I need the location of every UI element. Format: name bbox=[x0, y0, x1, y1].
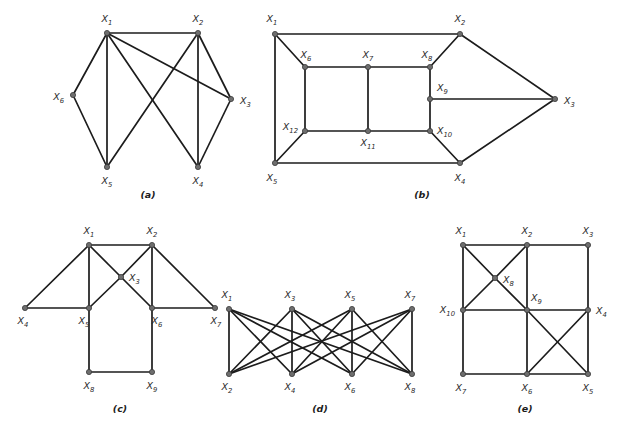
vertex-X1 bbox=[104, 30, 109, 35]
vertex-X6 bbox=[302, 64, 307, 69]
vertex-label-X4: X4 bbox=[454, 172, 466, 186]
graph-b-edges bbox=[275, 34, 555, 163]
vertex-X1 bbox=[226, 306, 231, 311]
vertex-label-X6: X6 bbox=[300, 49, 313, 63]
vertex-label-X5: X5 bbox=[582, 382, 594, 396]
vertex-X6 bbox=[349, 371, 354, 376]
vertex-label-X1: X1 bbox=[455, 225, 467, 239]
vertex-X9 bbox=[149, 369, 154, 374]
vertex-label-X1: X1 bbox=[101, 13, 113, 27]
vertex-X7 bbox=[409, 306, 414, 311]
vertex-X4 bbox=[195, 164, 200, 169]
vertex-X4 bbox=[457, 160, 462, 165]
vertex-label-X5: X5 bbox=[266, 172, 278, 186]
vertex-X1 bbox=[86, 242, 91, 247]
vertex-X2 bbox=[457, 31, 462, 36]
vertex-X7 bbox=[212, 305, 217, 310]
graph-c-edges bbox=[25, 245, 215, 372]
edge-X1-X3 bbox=[107, 33, 231, 99]
vertex-label-X7: X7 bbox=[362, 49, 375, 63]
vertex-X6 bbox=[70, 92, 75, 97]
vertex-X4 bbox=[289, 371, 294, 376]
vertex-X4 bbox=[585, 307, 590, 312]
vertex-X5 bbox=[104, 164, 109, 169]
vertex-label-X4: X4 bbox=[17, 315, 29, 329]
vertex-X2 bbox=[149, 242, 154, 247]
caption-a: (a) bbox=[140, 189, 155, 200]
graph-e: X1X2X3X4X5X6X7X8X9X10(e) bbox=[439, 225, 607, 414]
vertex-label-X4: X4 bbox=[595, 305, 607, 319]
vertex-label-X12: X12 bbox=[282, 121, 298, 135]
vertex-label-X8: X8 bbox=[502, 274, 515, 288]
vertex-X1 bbox=[460, 242, 465, 247]
vertex-X7 bbox=[460, 371, 465, 376]
edge-X3-X4 bbox=[460, 99, 555, 163]
vertex-label-X3: X3 bbox=[582, 225, 594, 239]
graph-d-edges bbox=[229, 309, 412, 374]
vertex-X8 bbox=[409, 371, 414, 376]
graph-d: X1X3X5X7X2X4X6X8(d) bbox=[221, 289, 417, 414]
vertex-label-X3: X3 bbox=[128, 272, 140, 286]
vertex-label-X7: X7 bbox=[455, 382, 468, 396]
graph-a-edges bbox=[73, 33, 231, 167]
vertex-label-X9: X9 bbox=[530, 292, 542, 306]
vertex-X8 bbox=[427, 64, 432, 69]
vertex-label-X2: X2 bbox=[146, 225, 158, 239]
vertex-label-X6: X6 bbox=[52, 91, 65, 105]
vertex-X12 bbox=[302, 128, 307, 133]
vertex-X11 bbox=[365, 128, 370, 133]
graph-figure-canvas: X1X2X3X4X5X6(a)X1X2X3X4X5X6X7X8X9X10X11X… bbox=[0, 0, 625, 439]
vertex-X2 bbox=[195, 30, 200, 35]
edge-X2-X8 bbox=[430, 34, 460, 67]
vertex-label-X5: X5 bbox=[101, 175, 113, 189]
vertex-X10 bbox=[460, 307, 465, 312]
vertex-X6 bbox=[524, 371, 529, 376]
vertex-label-X6: X6 bbox=[344, 381, 357, 395]
vertex-label-X3: X3 bbox=[284, 289, 296, 303]
vertex-X1 bbox=[272, 31, 277, 36]
vertex-X5 bbox=[585, 371, 590, 376]
vertex-X8 bbox=[86, 369, 91, 374]
vertex-label-X2: X2 bbox=[454, 13, 466, 27]
vertex-label-X5: X5 bbox=[344, 289, 356, 303]
vertex-label-X7: X7 bbox=[404, 289, 417, 303]
vertex-X3 bbox=[228, 96, 233, 101]
edge-X1-X8 bbox=[463, 245, 495, 278]
vertex-X8 bbox=[492, 275, 497, 280]
edge-X3-X5 bbox=[89, 277, 121, 308]
vertex-label-X7: X7 bbox=[210, 315, 223, 329]
caption-e: (e) bbox=[517, 403, 532, 414]
vertex-label-X10: X10 bbox=[439, 304, 455, 318]
edge-X2-X3 bbox=[198, 33, 231, 99]
vertex-X5 bbox=[272, 160, 277, 165]
caption-d: (d) bbox=[312, 403, 327, 414]
vertex-label-X5: X5 bbox=[78, 315, 90, 329]
vertex-X7 bbox=[365, 64, 370, 69]
caption-c: (c) bbox=[113, 403, 127, 414]
edge-X2-X3 bbox=[121, 245, 152, 277]
vertex-X2 bbox=[524, 242, 529, 247]
vertex-X10 bbox=[427, 128, 432, 133]
vertex-label-X11: X11 bbox=[359, 137, 375, 151]
vertex-label-X8: X8 bbox=[421, 49, 434, 63]
edge-X1-X4 bbox=[25, 245, 89, 308]
vertex-X5 bbox=[349, 306, 354, 311]
vertex-label-X2: X2 bbox=[221, 381, 233, 395]
vertex-label-X8: X8 bbox=[404, 381, 417, 395]
graph-a: X1X2X3X4X5X6(a) bbox=[52, 13, 251, 200]
vertex-label-X8: X8 bbox=[83, 380, 96, 394]
edge-X8-X2 bbox=[495, 245, 527, 278]
vertex-label-X1: X1 bbox=[83, 225, 95, 239]
edge-X8-X10 bbox=[463, 278, 495, 310]
edge-X3-X4 bbox=[198, 99, 231, 167]
vertex-X5 bbox=[86, 305, 91, 310]
vertex-label-X9: X9 bbox=[436, 82, 448, 96]
vertex-label-X3: X3 bbox=[563, 95, 575, 109]
vertex-X3 bbox=[289, 306, 294, 311]
vertex-X3 bbox=[552, 96, 557, 101]
vertex-X3 bbox=[118, 274, 123, 279]
vertex-X6 bbox=[149, 305, 154, 310]
vertex-label-X2: X2 bbox=[521, 225, 533, 239]
vertex-label-X1: X1 bbox=[221, 289, 233, 303]
vertex-label-X3: X3 bbox=[239, 95, 251, 109]
